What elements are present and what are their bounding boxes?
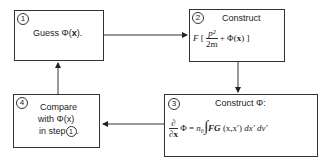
step-3-box: 3 Construct Φ: ∂∂x Φ = n₀∫FG (x,x′) dx′ … xyxy=(164,94,318,157)
step-4-box: 4 Compare with Φ(x) in step1. xyxy=(13,94,100,148)
step-ref-1: 1 xyxy=(66,126,77,137)
step-1-box: 1 Guess Φ(x). xyxy=(14,10,104,61)
step-2-number: 2 xyxy=(192,12,204,24)
step-4-line2: with Φ(x) xyxy=(38,114,74,124)
step-1-text: Guess Φ(x). xyxy=(33,28,82,38)
step-2-title: Construct xyxy=(222,13,261,23)
step-2-box: 2 Construct F [ p²2m + Φ(x) ] xyxy=(189,9,285,62)
step-3-number: 3 xyxy=(168,98,180,110)
step-3-title: Construct Φ: xyxy=(215,98,266,108)
step-4-line1: Compare xyxy=(40,102,77,112)
step-2-formula: F [ p²2m + Φ(x) ] xyxy=(193,28,249,49)
step-3-formula: ∂∂x Φ = n₀∫FG (x,x′) dx′ dv′ xyxy=(169,118,268,139)
step-4-number: 4 xyxy=(16,97,28,109)
step-1-number: 1 xyxy=(17,13,29,25)
step-4-line3: in step1. xyxy=(39,126,79,137)
